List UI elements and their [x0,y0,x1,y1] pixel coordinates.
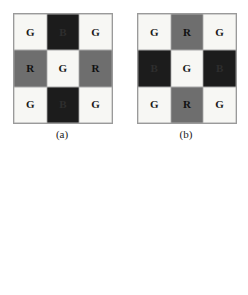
cfa-cell: G [47,50,80,86]
cfa-cell: B [203,50,236,86]
cfa-grid-a: G B G R G R G B G [13,13,113,124]
bayer-pattern-figure: G B G R G R G B G (a) G R G B G B G R [0,0,248,295]
cfa-cell: R [79,50,112,86]
panel-b: G R G B G B G R G (b) [124,0,248,147]
cfa-cell: B [47,14,80,50]
cfa-cell: G [14,87,47,123]
cfa-grid-b: G R G B G B G R G [137,13,237,124]
cfa-cell: R [14,50,47,86]
panel-caption: (a) [0,128,124,140]
cfa-cell: G [203,87,236,123]
panel-a: G B G R G R G B G (a) [0,0,124,147]
cfa-cell: R [171,14,204,50]
cfa-cell: R [171,87,204,123]
panel-caption: (b) [124,128,248,140]
cfa-cell: B [47,87,80,123]
cfa-cell: B [138,50,171,86]
cfa-cell: G [14,14,47,50]
cfa-cell: G [79,14,112,50]
cfa-cell: G [138,14,171,50]
cfa-cell: G [138,87,171,123]
cfa-cell: G [171,50,204,86]
panel-grid: G B G R G R G B G (a) G R G B G B G R [0,0,248,294]
cfa-cell: G [203,14,236,50]
cfa-cell: G [79,87,112,123]
